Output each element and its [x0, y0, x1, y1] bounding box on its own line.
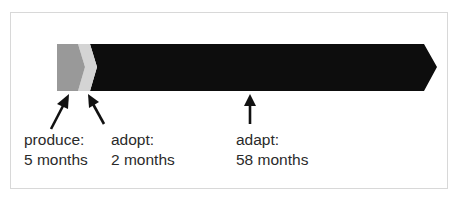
adapt-segment: [90, 44, 437, 91]
adapt-label-title: adapt:: [236, 130, 308, 150]
produce-label: produce: 5 months: [24, 130, 88, 170]
adapt-label: adapt: 58 months: [236, 130, 308, 170]
produce-arrow-icon: [51, 94, 69, 129]
timeline-diagram: [0, 0, 457, 200]
adopt-label-value: 2 months: [111, 150, 175, 170]
produce-label-title: produce:: [24, 130, 88, 150]
adapt-label-value: 58 months: [236, 150, 308, 170]
produce-label-value: 5 months: [24, 150, 88, 170]
adopt-label-title: adopt:: [111, 130, 175, 150]
adopt-label: adopt: 2 months: [111, 130, 175, 170]
adapt-arrow-icon: [244, 94, 256, 124]
adopt-arrow-icon: [88, 94, 104, 124]
